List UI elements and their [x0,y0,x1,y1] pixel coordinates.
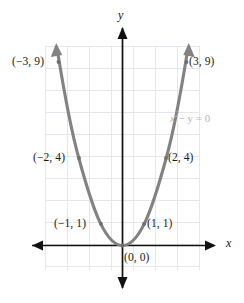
point-label-neg2-4: (−2, 4) [33,151,65,163]
point-1-1 [142,222,146,226]
point-neg2-4 [77,156,81,160]
y-axis-label: y [118,8,123,23]
point-label-0-0: (0, 0) [124,251,150,263]
point-neg1-1 [99,222,103,226]
point-0-0 [121,244,125,248]
point-label-1-1: (1, 1) [147,217,173,229]
point-label-neg1-1: (−1, 1) [54,217,86,229]
equation-annotation: x2− y = 0 [170,110,210,124]
point-neg3-9 [57,60,61,64]
x-axis-label: x [226,236,231,251]
parabola-graph-figure: (−3, 9) (3, 9) (−2, 4) (2, 4) (−1, 1) (1… [0,0,244,303]
point-label-3-9: (3, 9) [189,55,215,67]
point-label-2-4: (2, 4) [168,151,194,163]
point-3-9 [185,60,189,64]
point-label-neg3-9: (−3, 9) [12,55,44,67]
equation-rest: − y = 0 [179,112,211,124]
